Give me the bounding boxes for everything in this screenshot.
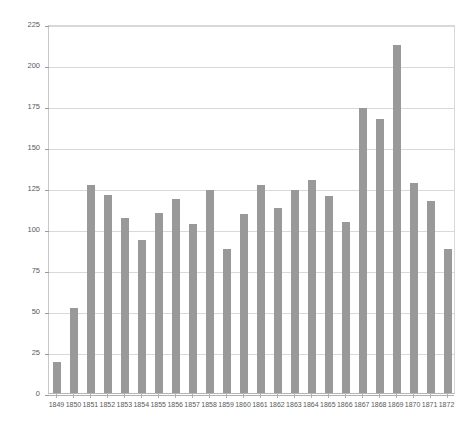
bar xyxy=(444,249,452,393)
bar xyxy=(155,213,163,393)
y-tick-label: 175 xyxy=(2,103,40,111)
x-tick-mark xyxy=(413,394,414,398)
y-tick-label: 225 xyxy=(2,21,40,29)
x-tick-mark xyxy=(379,394,380,398)
bar xyxy=(223,249,231,393)
y-tick-label: 150 xyxy=(2,144,40,152)
x-tick-mark xyxy=(362,394,363,398)
bar xyxy=(427,201,435,393)
y-tick-label: 200 xyxy=(2,62,40,70)
x-tick-mark xyxy=(226,394,227,398)
x-tick-mark xyxy=(158,394,159,398)
x-tick-mark xyxy=(294,394,295,398)
bar xyxy=(342,222,350,393)
bar xyxy=(410,183,418,393)
x-tick-mark xyxy=(141,394,142,398)
bar xyxy=(257,185,265,393)
x-tick-mark xyxy=(90,394,91,398)
bar xyxy=(291,190,299,393)
y-tick-label: 75 xyxy=(2,267,40,275)
bar xyxy=(172,199,180,393)
x-tick-mark xyxy=(328,394,329,398)
bar xyxy=(189,224,197,393)
bar xyxy=(206,190,214,393)
plot-area xyxy=(48,25,455,394)
bar xyxy=(308,180,316,393)
y-tick-label: 100 xyxy=(2,226,40,234)
y-axis: 0255075100125150175200225 xyxy=(0,0,40,429)
bar xyxy=(393,45,401,393)
x-tick-mark xyxy=(175,394,176,398)
x-tick-mark xyxy=(430,394,431,398)
gridline xyxy=(49,395,454,396)
x-tick-mark xyxy=(260,394,261,398)
x-axis: 1849185018511852185318541855185618571858… xyxy=(48,398,455,416)
x-tick-label: 1872 xyxy=(432,401,462,408)
bar-chart: 0255075100125150175200225 18491850185118… xyxy=(0,0,473,429)
x-tick-mark xyxy=(345,394,346,398)
y-tick-label: 50 xyxy=(2,308,40,316)
y-tick-mark xyxy=(45,395,49,396)
bar xyxy=(53,362,61,393)
bar xyxy=(121,218,129,393)
x-tick-mark xyxy=(243,394,244,398)
bar xyxy=(376,119,384,393)
x-tick-mark xyxy=(124,394,125,398)
x-tick-mark xyxy=(73,394,74,398)
bar xyxy=(104,195,112,393)
bar xyxy=(87,185,95,393)
x-tick-mark xyxy=(209,394,210,398)
bars-group xyxy=(49,26,454,393)
x-tick-mark xyxy=(192,394,193,398)
bar xyxy=(70,308,78,393)
x-tick-mark xyxy=(447,394,448,398)
x-tick-mark xyxy=(311,394,312,398)
bar xyxy=(240,214,248,393)
bar xyxy=(325,196,333,393)
y-tick-label: 25 xyxy=(2,349,40,357)
bar xyxy=(359,108,367,393)
bar xyxy=(138,240,146,393)
x-tick-mark xyxy=(56,394,57,398)
y-tick-label: 0 xyxy=(2,390,40,398)
bar xyxy=(274,208,282,393)
x-tick-mark xyxy=(396,394,397,398)
x-tick-mark xyxy=(277,394,278,398)
y-tick-label: 125 xyxy=(2,185,40,193)
x-tick-mark xyxy=(107,394,108,398)
